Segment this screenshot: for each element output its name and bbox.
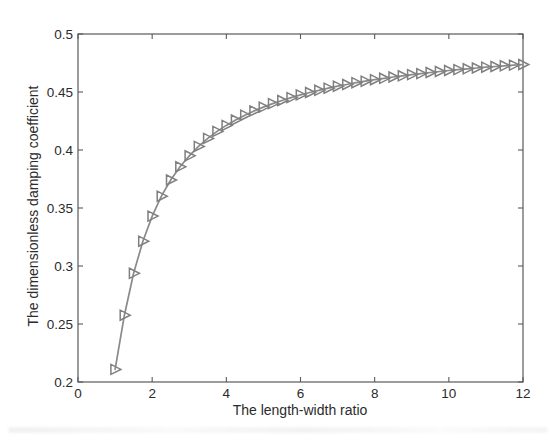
x-tick-label: 8 (371, 386, 379, 401)
y-axis-title: The dimensionless damping coefficient (25, 85, 41, 326)
data-series-line (115, 65, 523, 370)
data-point-markers (111, 60, 529, 375)
x-tick-label: 2 (148, 386, 156, 401)
plot-frame (78, 34, 523, 382)
damping-coefficient-chart: 0246810120.20.250.30.350.40.450.5 The le… (0, 0, 554, 441)
x-tick-label: 10 (441, 386, 456, 401)
x-tick-label: 12 (515, 386, 530, 401)
scan-artifact-smudge (8, 427, 548, 433)
y-tick-label: 0.5 (54, 27, 73, 42)
figure-page: 0246810120.20.250.30.350.40.450.5 The le… (0, 0, 554, 441)
y-tick-label: 0.2 (54, 375, 73, 390)
y-tick-label: 0.35 (47, 201, 73, 216)
y-tick-label: 0.4 (54, 143, 73, 158)
x-tick-label: 4 (223, 386, 231, 401)
plot-area: 0246810120.20.250.30.350.40.450.5 (47, 27, 531, 402)
y-tick-label: 0.25 (47, 317, 73, 332)
x-tick-label: 6 (297, 386, 305, 401)
y-tick-label: 0.45 (47, 85, 73, 100)
y-tick-label: 0.3 (54, 259, 73, 274)
x-tick-label: 0 (74, 386, 82, 401)
x-axis-title: The length-width ratio (233, 402, 368, 418)
